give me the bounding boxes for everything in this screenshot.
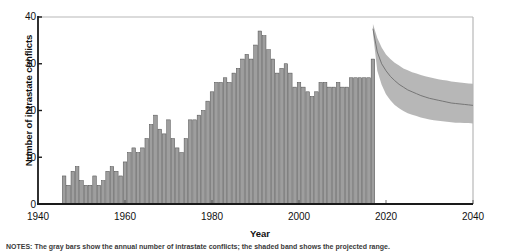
bar-series — [62, 31, 374, 204]
x-tick-2040: 2040 — [462, 211, 484, 222]
chart-figure: Number of intrastate conflicts Year 40 3… — [0, 0, 520, 251]
x-tick-1960: 1960 — [114, 211, 136, 222]
y-tick-10: 10 — [12, 152, 36, 163]
x-tick-2000: 2000 — [288, 211, 310, 222]
x-tick-1980: 1980 — [201, 211, 223, 222]
x-axis-label: Year — [0, 228, 520, 239]
y-tick-0: 0 — [12, 199, 36, 210]
x-tick-1940: 1940 — [27, 211, 49, 222]
y-tick-30: 30 — [12, 58, 36, 69]
y-tick-20: 20 — [12, 105, 36, 116]
chart-footnote: NOTES: The gray bars show the annual num… — [6, 243, 516, 251]
y-tick-40: 40 — [12, 11, 36, 22]
x-tick-2020: 2020 — [375, 211, 397, 222]
plot-area — [0, 0, 520, 251]
